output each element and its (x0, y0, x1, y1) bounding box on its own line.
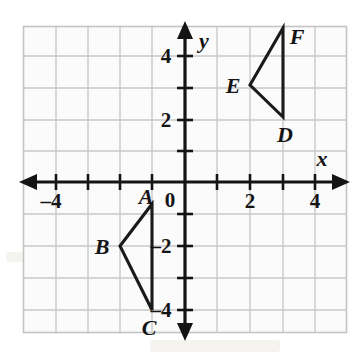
vertex-label-c: C (142, 315, 157, 340)
vertex-label-e: E (225, 73, 241, 98)
vertex-label-a: A (137, 184, 154, 209)
x-tick-label-2: 2 (245, 189, 256, 213)
y-tick-label-4: 4 (161, 44, 172, 68)
coordinate-plane-figure: x y 0 –4 2 4 4 2 –2 –4 A B C D E F (0, 0, 361, 357)
x-axis-label: x (316, 146, 328, 171)
origin-label: 0 (165, 188, 176, 212)
coordinate-plane-svg: x y 0 –4 2 4 4 2 –2 –4 A B C D E F (0, 0, 361, 357)
x-tick-label-neg4: –4 (40, 189, 63, 213)
vertex-label-b: B (94, 234, 110, 259)
vertex-label-d: D (276, 122, 293, 147)
paper-smudge (150, 340, 280, 352)
y-tick-label-2: 2 (161, 108, 172, 132)
vertex-label-f: F (289, 24, 305, 49)
x-tick-label-4: 4 (310, 189, 321, 213)
y-tick-label-neg2: –2 (150, 234, 172, 258)
